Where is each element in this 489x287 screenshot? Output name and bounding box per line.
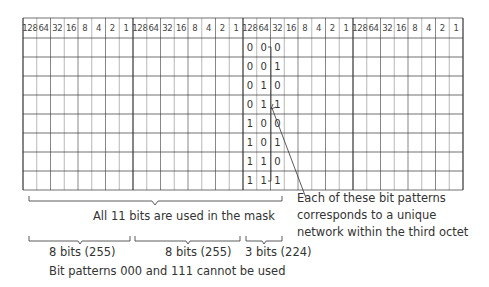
octet-brackets (29, 236, 282, 244)
callout-line-2: corresponds to a unique (297, 208, 436, 222)
mask-total-label: All 11 bits are used in the mask (93, 209, 275, 223)
octet3-label: 3 bits (224) (245, 245, 312, 259)
grid-lines (23, 18, 463, 190)
bracket-lines (0, 0, 489, 287)
callout-line-1: Each of these bit patterns (297, 191, 446, 205)
callout-line-3: network within the third octet (297, 225, 468, 239)
octet1-label: 8 bits (255) (49, 245, 116, 259)
restriction-label: Bit patterns 000 and 111 cannot be used (49, 264, 286, 278)
mask-bracket (29, 196, 282, 205)
callout-arrow (271, 104, 306, 198)
octet2-label: 8 bits (255) (165, 245, 232, 259)
